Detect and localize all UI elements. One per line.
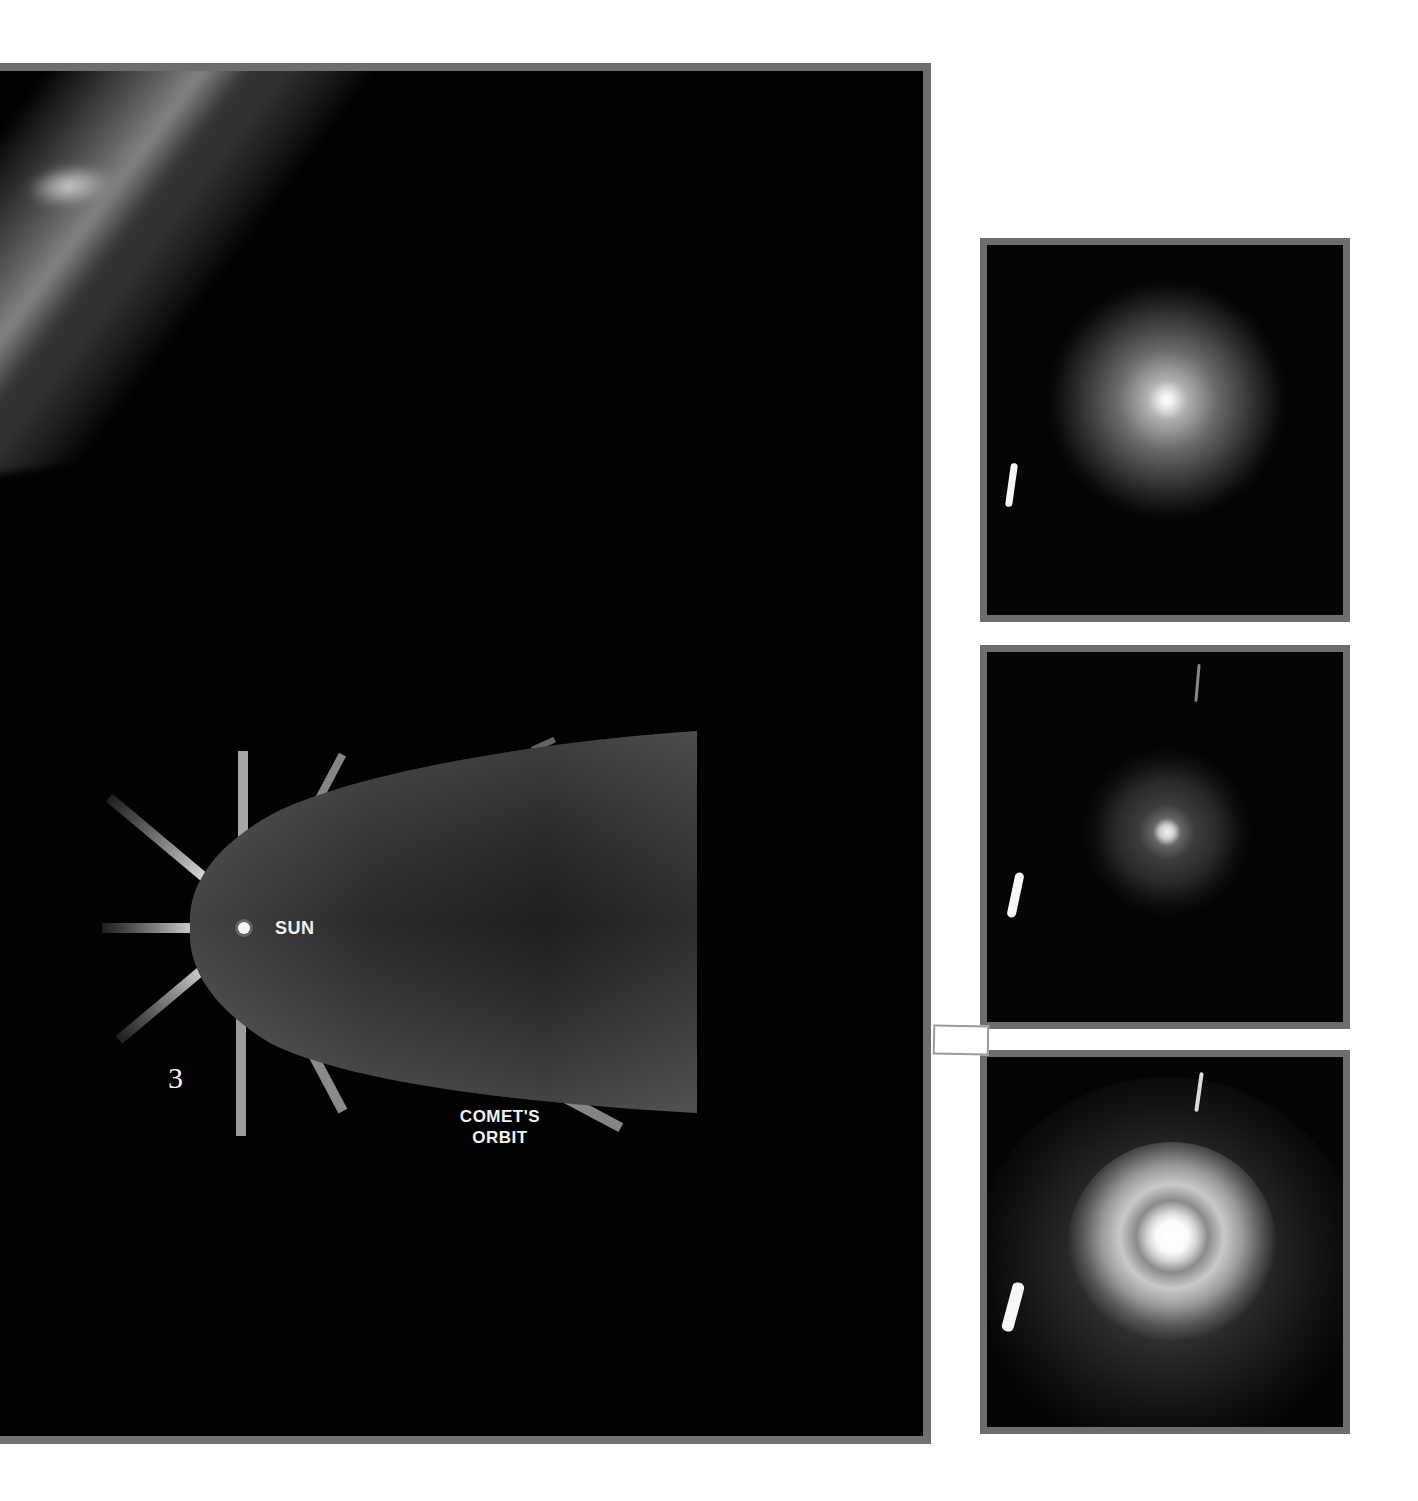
comet-coma [1047, 280, 1287, 520]
orbit-label-line1: COMET'S [440, 1106, 560, 1127]
scan-artifact [933, 1025, 990, 1056]
ray-lower-left [116, 962, 211, 1044]
comet-coma [1082, 747, 1252, 917]
ray-upper-left [106, 794, 208, 882]
sun-label: SUN [275, 918, 315, 939]
comet-photo-panel-2 [980, 645, 1350, 1029]
faint-star-streak [1194, 664, 1200, 702]
ray-left [102, 923, 197, 933]
figure-number: 3 [168, 1061, 183, 1095]
orbit-diagram-panel: SUN COMET'S ORBIT 3 [0, 63, 931, 1444]
comet-coma [1067, 1142, 1277, 1352]
comet-photo-panel-3 [980, 1050, 1350, 1434]
orbit-label-line2: ORBIT [440, 1127, 560, 1148]
star-streak [1005, 463, 1018, 508]
orbit-diagram [0, 71, 923, 1436]
star-streak [1006, 872, 1024, 919]
comet-orbit-label: COMET'S ORBIT [440, 1106, 560, 1148]
comet-photo-panel-1 [980, 238, 1350, 622]
